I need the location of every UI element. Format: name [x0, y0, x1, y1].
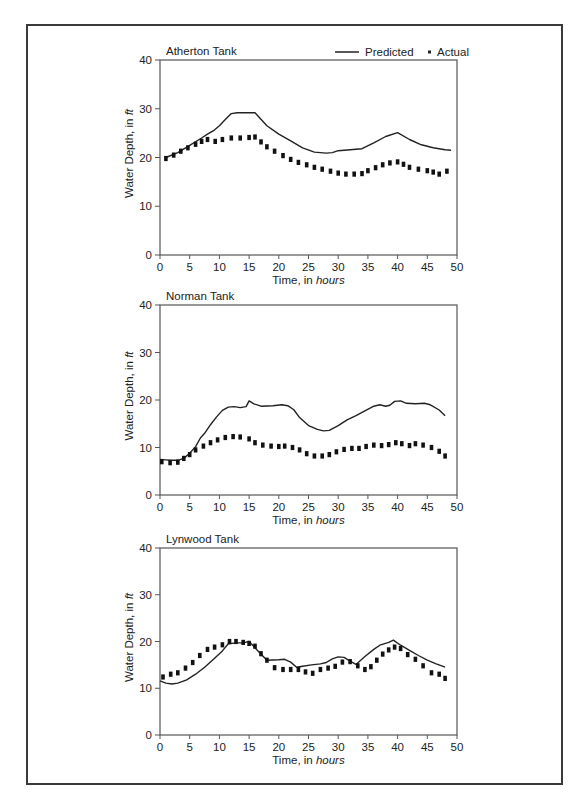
actual-marker	[169, 672, 173, 677]
actual-marker	[393, 645, 397, 650]
actual-marker	[311, 671, 315, 676]
actual-marker	[297, 667, 301, 672]
y-tick-label: 10	[139, 682, 152, 694]
x-tick-label: 40	[391, 741, 404, 753]
actual-marker	[399, 646, 403, 651]
plot-area	[160, 548, 457, 735]
actual-marker	[348, 659, 352, 664]
actual-marker	[289, 667, 293, 672]
actual-marker	[387, 647, 391, 652]
x-tick-label: 45	[421, 741, 434, 753]
x-axis-label: Time, in hours	[272, 754, 345, 766]
actual-marker	[319, 667, 323, 672]
actual-marker	[356, 663, 360, 668]
y-axis-label: Water Depth, in ft	[123, 592, 135, 682]
x-tick-label: 50	[451, 741, 464, 753]
x-tick-label: 20	[272, 741, 285, 753]
x-tick-label: 15	[243, 741, 256, 753]
actual-marker	[206, 647, 210, 652]
figure-caption-cropped	[24, 795, 564, 802]
actual-marker	[281, 667, 285, 672]
y-tick-label: 30	[139, 589, 152, 601]
actual-marker	[421, 663, 425, 668]
actual-marker	[184, 666, 188, 671]
actual-marker	[253, 644, 257, 649]
actual-marker	[406, 652, 410, 657]
actual-marker	[333, 664, 337, 669]
x-tick-label: 0	[157, 741, 163, 753]
actual-marker	[430, 670, 434, 675]
x-tick-label: 5	[186, 741, 192, 753]
x-tick-label: 35	[362, 741, 375, 753]
actual-marker	[304, 669, 308, 674]
y-tick-label: 40	[139, 542, 152, 554]
actual-marker	[176, 670, 180, 675]
chart-svg: 01020304005101520253035404550Time, in ho…	[0, 0, 586, 780]
actual-marker	[273, 665, 277, 670]
x-tick-label: 10	[213, 741, 226, 753]
actual-marker	[234, 639, 238, 644]
actual-marker	[443, 676, 447, 681]
actual-markers	[161, 639, 447, 681]
actual-marker	[414, 657, 418, 662]
actual-marker	[437, 672, 441, 677]
actual-marker	[363, 667, 367, 672]
actual-marker	[381, 652, 385, 657]
actual-marker	[375, 658, 379, 663]
actual-marker	[341, 660, 345, 665]
x-tick-label: 30	[332, 741, 345, 753]
actual-marker	[198, 653, 202, 658]
actual-marker	[247, 641, 251, 646]
actual-marker	[221, 642, 225, 647]
actual-marker	[191, 660, 195, 665]
actual-marker	[369, 664, 373, 669]
chart-title: Lynwood Tank	[166, 533, 239, 545]
actual-marker	[161, 674, 165, 679]
actual-marker	[265, 658, 269, 663]
actual-marker	[213, 645, 217, 650]
x-tick-label: 25	[302, 741, 315, 753]
y-tick-label: 0	[146, 729, 152, 741]
actual-marker	[326, 666, 330, 671]
y-tick-label: 20	[139, 636, 152, 648]
actual-marker	[228, 639, 232, 644]
actual-marker	[241, 640, 245, 645]
actual-marker	[259, 651, 263, 656]
